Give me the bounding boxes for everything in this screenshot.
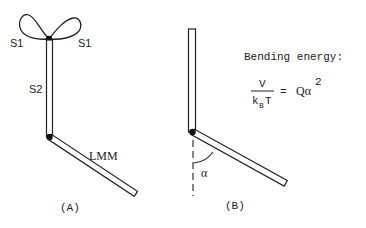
- angle-alpha-label: α: [201, 166, 208, 180]
- s2-rod: [47, 40, 53, 137]
- label-s2: S2: [29, 83, 42, 95]
- label-s1-left: S1: [10, 37, 23, 49]
- hinge-dot-b: [189, 129, 196, 136]
- label-s1-right: S1: [78, 37, 91, 49]
- vertical-rod: [189, 29, 196, 132]
- formula-equals: =: [280, 86, 287, 98]
- caption-b: (B): [225, 200, 245, 212]
- s1-right-head: [49, 18, 81, 39]
- bending-energy-title: Bending energy:: [244, 51, 343, 63]
- angle-arc: [194, 152, 213, 163]
- lmm-rod: [48, 134, 137, 196]
- panel-b: α (B) Bending energy: V k B T = Qα 2: [189, 29, 344, 212]
- myosin-bending-diagram: S1 S1 S2 LMM (A) α (B) Bending energy: V…: [0, 0, 366, 228]
- formula-numerator: V: [259, 78, 266, 90]
- formula-denominator-t: T: [265, 95, 272, 107]
- hinge-dot-a: [46, 134, 52, 140]
- panel-a: S1 S1 S2 LMM (A): [10, 15, 138, 214]
- s1-left-head: [20, 15, 49, 40]
- caption-a: (A): [60, 202, 80, 214]
- formula-exponent: 2: [315, 76, 322, 88]
- label-lmm: LMM: [89, 149, 118, 163]
- formula-rhs: Qα: [296, 84, 312, 98]
- formula-denominator-subscript: B: [259, 101, 264, 110]
- formula-denominator-k: k: [252, 95, 259, 107]
